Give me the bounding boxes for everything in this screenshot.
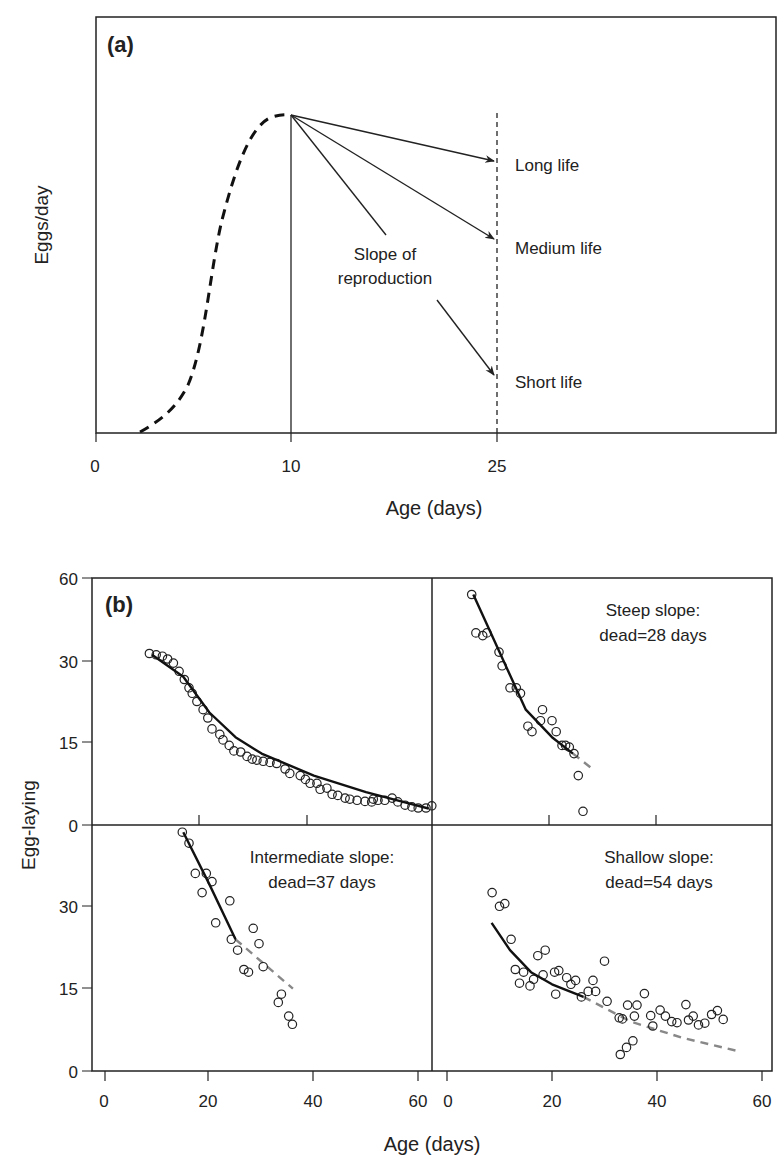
ytick-lower-30: 30 xyxy=(59,898,78,917)
ytick-lower-0: 0 xyxy=(69,1063,78,1082)
data-point xyxy=(328,790,336,798)
data-point xyxy=(528,728,536,736)
data-point xyxy=(191,869,199,877)
data-point xyxy=(538,706,546,714)
figure-canvas: (a) Eggs/day 0 10 25 Age (days) Slope of… xyxy=(0,0,784,1172)
data-point xyxy=(548,717,556,725)
data-point xyxy=(603,997,611,1005)
data-point xyxy=(274,998,282,1006)
panel-a-label: (a) xyxy=(107,32,134,57)
xtick-right-40: 40 xyxy=(648,1092,667,1111)
long-life-label: Long life xyxy=(515,156,579,175)
panel-a: (a) Eggs/day 0 10 25 Age (days) Slope of… xyxy=(31,17,776,519)
data-point xyxy=(501,899,509,907)
panel-b-ylabel: Egg-laying xyxy=(18,780,39,870)
data-point xyxy=(212,919,220,927)
data-point xyxy=(579,807,587,815)
data-point xyxy=(552,728,560,736)
extrapolation-line xyxy=(573,754,594,771)
steep-label-2: dead=28 days xyxy=(599,626,706,645)
xtick-label-25: 25 xyxy=(488,457,507,476)
xtick-left-0: 0 xyxy=(99,1092,108,1111)
data-point xyxy=(623,1001,631,1009)
shallow-label-1: Shallow slope: xyxy=(604,848,714,867)
data-point xyxy=(682,1000,690,1008)
data-point xyxy=(255,940,263,948)
xtick-label-10: 10 xyxy=(282,457,301,476)
data-point xyxy=(511,965,519,973)
data-point xyxy=(259,963,267,971)
ytick-30: 30 xyxy=(59,653,78,672)
subplot-all-flies xyxy=(145,649,436,812)
data-point xyxy=(673,1019,681,1027)
panel-b: (b) Egg-laying 60 30 15 0 30 15 0 xyxy=(18,570,772,1155)
xtick-right-20: 20 xyxy=(543,1092,562,1111)
extrapolation-line xyxy=(236,939,293,988)
short-life-arrow xyxy=(437,300,494,375)
data-point xyxy=(495,902,503,910)
data-point xyxy=(208,725,216,733)
data-point xyxy=(515,979,523,987)
data-point xyxy=(169,659,177,667)
data-point xyxy=(225,741,233,749)
data-point xyxy=(277,990,285,998)
ytick-lower-15: 15 xyxy=(59,980,78,999)
data-point xyxy=(629,1037,637,1045)
data-point xyxy=(198,888,206,896)
data-point xyxy=(534,952,542,960)
data-point xyxy=(541,946,549,954)
intermediate-label-2: dead=37 days xyxy=(268,873,375,892)
data-point xyxy=(574,771,582,779)
data-point xyxy=(600,957,608,965)
data-point xyxy=(633,1001,641,1009)
data-point xyxy=(524,722,532,730)
panel-a-frame xyxy=(96,17,776,433)
data-point xyxy=(552,990,560,998)
rise-curve xyxy=(140,115,291,432)
inner-ticks xyxy=(199,815,656,825)
ytick-0: 0 xyxy=(69,817,78,836)
xtick-left-60: 60 xyxy=(409,1092,428,1111)
xtick-label-0: 0 xyxy=(90,457,99,476)
slope-annotation-line2: reproduction xyxy=(338,269,433,288)
data-point xyxy=(707,1010,715,1018)
xtick-right-0: 0 xyxy=(443,1092,452,1111)
medium-life-label: Medium life xyxy=(515,239,602,258)
data-point xyxy=(163,655,171,663)
data-point xyxy=(243,752,251,760)
x-axis-ticks xyxy=(105,1071,762,1081)
data-point xyxy=(719,1015,727,1023)
data-point xyxy=(488,888,496,896)
fit-line xyxy=(473,595,573,754)
data-point xyxy=(507,935,515,943)
xtick-left-20: 20 xyxy=(199,1092,218,1111)
panel-a-xlabel: Age (days) xyxy=(386,497,483,519)
shallow-label-2: dead=54 days xyxy=(605,873,712,892)
subplot-shallow-slope xyxy=(488,888,741,1058)
data-point xyxy=(640,989,648,997)
data-point xyxy=(288,1020,296,1028)
medium-life-arrow xyxy=(291,115,494,239)
xtick-left-40: 40 xyxy=(304,1092,323,1111)
data-point xyxy=(647,1011,655,1019)
data-point xyxy=(233,946,241,954)
data-point xyxy=(589,976,597,984)
data-point xyxy=(249,924,257,932)
intermediate-label-1: Intermediate slope: xyxy=(250,848,395,867)
fit-line xyxy=(152,655,429,809)
fit-line xyxy=(183,832,235,939)
data-point xyxy=(622,1043,630,1051)
ytick-60: 60 xyxy=(59,570,78,589)
data-point xyxy=(226,897,234,905)
data-point xyxy=(285,1012,293,1020)
xtick-right-60: 60 xyxy=(753,1092,772,1111)
y-axis-upper: 60 30 15 0 xyxy=(59,570,92,836)
data-point xyxy=(713,1006,721,1014)
subplot-steep-slope xyxy=(468,590,595,815)
y-axis-lower: 30 15 0 xyxy=(59,898,92,1082)
slope-annotation-line1: Slope of xyxy=(354,245,417,264)
panel-a-ylabel: Eggs/day xyxy=(31,185,52,265)
panel-b-label: (b) xyxy=(105,592,133,617)
ytick-15: 15 xyxy=(59,734,78,753)
steep-label-1: Steep slope: xyxy=(606,601,701,620)
